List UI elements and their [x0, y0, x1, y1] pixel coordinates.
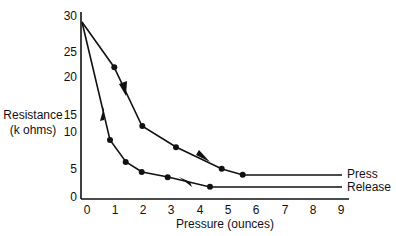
press-label: Press	[347, 167, 378, 181]
press-arrow-icon	[119, 81, 127, 96]
x-tick-7: 7	[282, 203, 289, 217]
y-axis-label-line2: (k ohms)	[10, 123, 57, 137]
y-tick-20: 20	[64, 70, 78, 84]
x-tick-4: 4	[197, 203, 204, 217]
press-markers	[111, 64, 245, 177]
x-tick-8: 8	[310, 203, 317, 217]
y-tick-5: 5	[70, 162, 77, 176]
x-tick-3: 3	[168, 203, 175, 217]
y-tick-10: 10	[64, 125, 78, 139]
y-tick-15: 15	[64, 108, 78, 122]
x-axis-label: Pressure (ounces)	[176, 217, 274, 231]
x-tick-1: 1	[112, 203, 119, 217]
x-tick-6: 6	[253, 203, 260, 217]
y-tick-0: 0	[70, 190, 77, 204]
x-tick-0: 0	[84, 203, 91, 217]
x-tick-9: 9	[338, 203, 345, 217]
release-line	[82, 22, 342, 187]
y-tick-25: 25	[64, 45, 78, 59]
y-axis-label-line1: Resistance	[3, 108, 63, 122]
x-tick-2: 2	[140, 203, 147, 217]
press-line	[82, 22, 342, 175]
resistance-pressure-chart: 30 25 20 15 10 5 0 Resistance (k ohms) 0…	[0, 0, 396, 236]
y-tick-30: 30	[64, 9, 78, 23]
release-markers	[107, 137, 213, 190]
x-tick-5: 5	[225, 203, 232, 217]
release-label: Release	[347, 180, 391, 194]
